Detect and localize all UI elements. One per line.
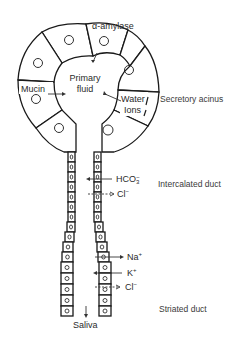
striated-duct-label: Striated duct bbox=[159, 304, 207, 314]
water-label: Water bbox=[121, 94, 145, 104]
mucin-label: Mucin bbox=[21, 84, 45, 94]
salivary-diagram: Primary fluid α-amylase Mucin Water Ions… bbox=[0, 0, 250, 338]
arrowhead-icon bbox=[93, 271, 97, 275]
primary-fluid-label-2: fluid bbox=[77, 84, 94, 94]
cl-label: Cl− bbox=[117, 188, 130, 199]
primary-fluid-label-1: Primary bbox=[70, 73, 101, 83]
arrowhead-icon bbox=[62, 92, 66, 96]
alpha-amylase-label: α-amylase bbox=[92, 21, 134, 31]
arrowhead-icon bbox=[84, 314, 88, 318]
arrowhead-icon bbox=[120, 255, 124, 259]
arrowhead-icon bbox=[103, 91, 107, 95]
secretory-acinus-label: Secretory acinus bbox=[160, 94, 223, 104]
arrowhead-icon bbox=[91, 60, 95, 63]
na-label: Na+ bbox=[127, 251, 143, 262]
arrowhead-icon bbox=[86, 177, 90, 181]
hco3-label: HCO3− bbox=[116, 174, 140, 185]
k-label: K+ bbox=[127, 267, 137, 278]
duct: HCO3− Cl− Intercalated duct Na+ K+ Cl− S… bbox=[61, 152, 221, 330]
ions-label: Ions bbox=[124, 105, 142, 115]
intercalated-duct-label: Intercalated duct bbox=[158, 179, 221, 189]
saliva-label: Saliva bbox=[73, 320, 98, 330]
secretory-acinus: Primary fluid α-amylase Mucin Water Ions… bbox=[18, 21, 223, 152]
cl-label-striated: Cl− bbox=[125, 281, 138, 292]
